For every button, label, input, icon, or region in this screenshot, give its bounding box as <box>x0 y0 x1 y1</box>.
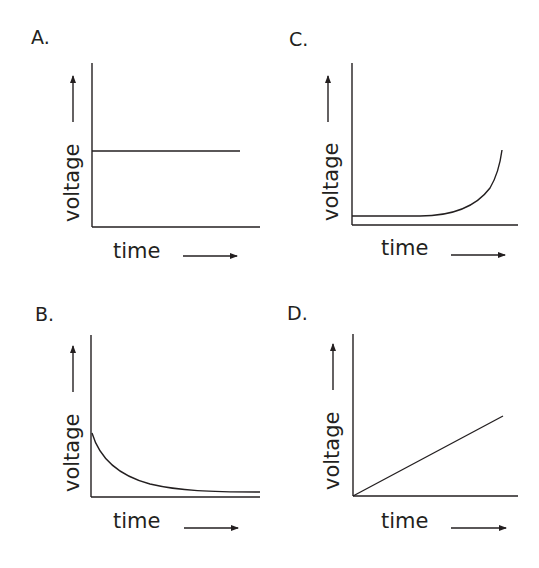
panel-b-plot <box>73 335 260 528</box>
plots-canvas <box>0 0 539 568</box>
panel-b-curve <box>92 433 260 492</box>
panel-d-curve <box>353 416 503 496</box>
figure: A. voltage time C. voltage time B. volta… <box>0 0 539 568</box>
panel-d-plot <box>333 334 518 528</box>
panel-a-plot <box>73 63 260 256</box>
panel-c-curve <box>352 150 502 216</box>
panel-c-plot <box>328 63 518 255</box>
